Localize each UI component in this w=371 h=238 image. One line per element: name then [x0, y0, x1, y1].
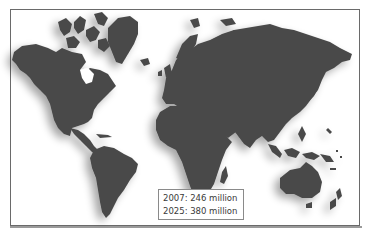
madagascar [220, 166, 228, 184]
north-america [12, 44, 116, 136]
greenland [108, 16, 138, 64]
new-zealand [330, 188, 342, 210]
legend-entry-2025: 2025: 380 million [163, 205, 243, 218]
south-america [90, 146, 138, 218]
legend-entry-2007: 2007: 246 million [163, 192, 243, 205]
population-legend: 2007: 246 million 2025: 380 million [158, 189, 244, 220]
australia [280, 162, 322, 198]
arctic-islands [58, 12, 110, 52]
